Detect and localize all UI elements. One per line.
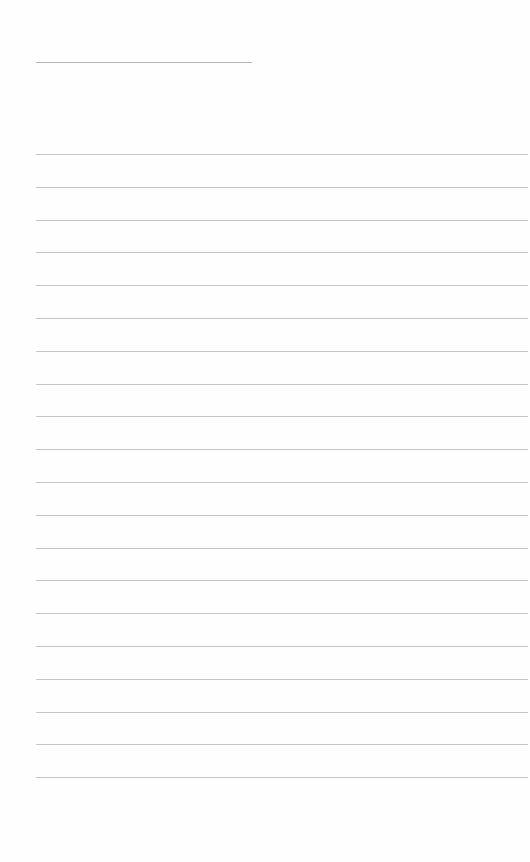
ruled-line: [36, 646, 528, 647]
lined-page: [0, 0, 530, 862]
ruled-line: [36, 154, 528, 155]
ruled-line: [36, 351, 528, 352]
ruled-line: [36, 449, 528, 450]
ruled-line: [36, 548, 528, 549]
ruled-line: [36, 285, 528, 286]
ruled-line: [36, 220, 528, 221]
title-line: [36, 62, 252, 63]
ruled-line: [36, 384, 528, 385]
ruled-line: [36, 580, 528, 581]
ruled-line: [36, 679, 528, 680]
ruled-line: [36, 252, 528, 253]
ruled-line: [36, 187, 528, 188]
ruled-line: [36, 744, 528, 745]
ruled-line: [36, 613, 528, 614]
ruled-line: [36, 712, 528, 713]
ruled-line: [36, 482, 528, 483]
ruled-line: [36, 416, 528, 417]
ruled-line: [36, 515, 528, 516]
ruled-line: [36, 777, 528, 778]
ruled-line: [36, 318, 528, 319]
